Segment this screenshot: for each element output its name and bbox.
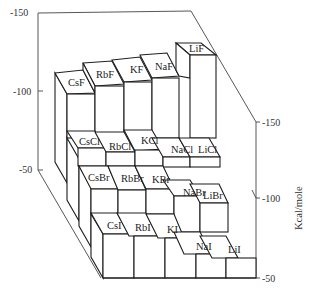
- bar-front-csbr: [91, 189, 118, 214]
- bar-label-nai: NaI: [196, 241, 212, 252]
- bar-label-licl: LiCl: [198, 144, 217, 155]
- block-left-side-cl: [67, 138, 79, 221]
- bar-front-cscl: [78, 148, 106, 166]
- bar-front-rbbr: [118, 190, 146, 214]
- back-top-edge: [38, 11, 191, 13]
- right-tick-label-100: -100: [262, 193, 280, 204]
- bar-label-ki: KI: [167, 224, 179, 235]
- right-tick-label-50: -50: [262, 273, 275, 284]
- right-tick-label-150: -150: [262, 117, 280, 128]
- bar-label-rbi: RbI: [135, 222, 151, 233]
- bar-label-csbr: CsBr: [88, 172, 110, 183]
- bar-label-naf: NaF: [155, 61, 173, 72]
- bar-front-rbf: [95, 86, 124, 138]
- bar-front-naf: [152, 78, 179, 138]
- bar-label-nacl: NaCl: [171, 144, 193, 155]
- bar-front-csi: [103, 234, 134, 278]
- bar-front-rbi: [134, 236, 165, 278]
- right-axis-break: [252, 190, 256, 198]
- y-axis-title: Kcal/mole: [293, 186, 304, 230]
- bar-label-lif: LiF: [189, 43, 204, 54]
- bar-label-libr: LiBr: [203, 190, 223, 201]
- lattice-energy-3d-bar-chart: -150 -100 -50 -150 -100 -50 Kcal/mole Cs…: [0, 0, 318, 296]
- bar-label-rbf: RbF: [96, 69, 114, 80]
- bar-label-rbcl: RbCl: [109, 141, 131, 152]
- bar-label-cscl: CsCl: [79, 136, 100, 147]
- bar-front-libr: [200, 203, 228, 232]
- bar-front-lif: [190, 55, 216, 138]
- left-tick-label-150: -150: [10, 7, 28, 18]
- row-iodides: CsI RbI KI NaI LiI: [91, 213, 256, 278]
- bar-label-kf: KF: [130, 64, 144, 75]
- bar-front-kcl: [135, 150, 163, 166]
- bar-front-licl: [190, 157, 220, 167]
- bar-front-kbr: [146, 189, 174, 214]
- bar-front-lii: [226, 258, 256, 278]
- bar-label-kcl: KCl: [141, 135, 159, 146]
- bar-label-rbbr: RbBr: [121, 173, 144, 184]
- bar-label-lii: LiI: [228, 244, 241, 255]
- left-tick-label-50: -50: [19, 164, 32, 175]
- bar-front-nacl: [163, 157, 190, 167]
- bar-label-csf: CsF: [68, 77, 85, 88]
- left-tick-label-100: -100: [13, 86, 31, 97]
- bar-front-rbcl: [106, 152, 135, 166]
- bar-label-kbr: KBr: [152, 174, 171, 185]
- bar-label-csi: CsI: [107, 220, 122, 231]
